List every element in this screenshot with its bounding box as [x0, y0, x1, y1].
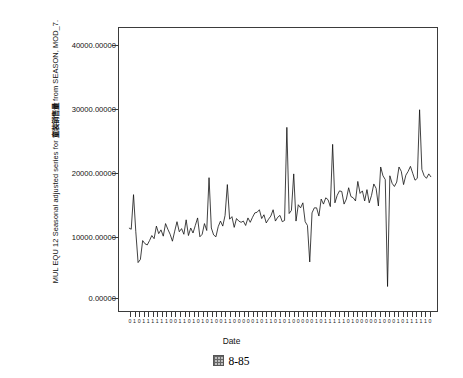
- x-tick-label: 1: [288, 318, 291, 324]
- x-tick-label: 1: [224, 318, 227, 324]
- x-tick-label: 0: [242, 318, 245, 324]
- x-tick-mark: [225, 312, 226, 317]
- x-tick-label: 1: [265, 318, 268, 324]
- x-tick-label: 1: [210, 318, 213, 324]
- x-tick-label: 1: [142, 318, 145, 324]
- x-tick-label: 1: [201, 318, 204, 324]
- x-tick-label: 1: [156, 318, 159, 324]
- x-tick-label: 0: [365, 318, 368, 324]
- x-tick-label: 0: [174, 318, 177, 324]
- x-tick-mark: [216, 312, 217, 317]
- x-axis-label: Date: [0, 336, 463, 346]
- x-tick-mark: [375, 312, 376, 317]
- x-tick-mark: [239, 312, 240, 317]
- x-tick-label: 1: [324, 318, 327, 324]
- x-tick-label: 1: [229, 318, 232, 324]
- x-tick-label: 0: [374, 318, 377, 324]
- x-tick-mark: [357, 312, 358, 317]
- x-tick-mark: [262, 312, 263, 317]
- x-tick-label: 0: [197, 318, 200, 324]
- x-tick-mark: [280, 312, 281, 317]
- x-tick-mark: [153, 312, 154, 317]
- x-tick-label: 1: [160, 318, 163, 324]
- x-tick-mark: [366, 312, 367, 317]
- x-tick-label: 0: [215, 318, 218, 324]
- x-tick-label: 0: [369, 318, 372, 324]
- x-tick-label: 0: [251, 318, 254, 324]
- x-tick-mark: [298, 312, 299, 317]
- x-tick-mark: [185, 312, 186, 317]
- x-tick-mark: [398, 312, 399, 317]
- x-tick-label: 1: [342, 318, 345, 324]
- x-tick-label: 0: [388, 318, 391, 324]
- x-tick-mark: [139, 312, 140, 317]
- x-tick-mark: [421, 312, 422, 317]
- x-tick-mark: [198, 312, 199, 317]
- x-tick-mark: [135, 312, 136, 317]
- x-tick-mark: [171, 312, 172, 317]
- y-tick-label-40000: 40000.00000: [34, 41, 116, 50]
- x-tick-mark: [130, 312, 131, 317]
- x-tick-mark: [257, 312, 258, 317]
- x-tick-mark: [230, 312, 231, 317]
- x-tick-label: 1: [256, 318, 259, 324]
- x-tick-mark: [339, 312, 340, 317]
- x-tick-mark: [412, 312, 413, 317]
- x-tick-mark: [275, 312, 276, 317]
- x-tick-label: 1: [151, 318, 154, 324]
- x-tick-mark: [144, 312, 145, 317]
- y-axis-ticks: 40000.00000 30000.00000 20000.00000 1000…: [28, 0, 116, 320]
- y-tick-label-30000: 30000.00000: [34, 105, 116, 114]
- x-tick-label: 0: [360, 318, 363, 324]
- figure-8-85: MUL EQU 12 Seasonal adjusted series for …: [0, 0, 463, 378]
- x-tick-label: 0: [401, 318, 404, 324]
- x-tick-mark: [321, 312, 322, 317]
- x-tick-label: 1: [410, 318, 413, 324]
- x-tick-label: 0: [392, 318, 395, 324]
- x-tick-label: 1: [147, 318, 150, 324]
- x-tick-label: 1: [279, 318, 282, 324]
- y-tick-label-0: 0.00000: [34, 294, 116, 303]
- x-tick-label: 1: [183, 318, 186, 324]
- x-tick-label: 1: [315, 318, 318, 324]
- x-tick-mark: [403, 312, 404, 317]
- x-tick-mark: [294, 312, 295, 317]
- x-tick-label: 1: [338, 318, 341, 324]
- x-tick-mark: [189, 312, 190, 317]
- figure-caption: 8-85: [0, 355, 463, 367]
- x-tick-label: 0: [260, 318, 263, 324]
- x-tick-mark: [175, 312, 176, 317]
- x-tick-label: 1: [397, 318, 400, 324]
- x-tick-mark: [244, 312, 245, 317]
- x-tick-mark: [371, 312, 372, 317]
- x-tick-mark: [407, 312, 408, 317]
- x-tick-label: 1: [419, 318, 422, 324]
- x-tick-label: 0: [238, 318, 241, 324]
- x-tick-mark: [285, 312, 286, 317]
- x-tick-label: 1: [165, 318, 168, 324]
- x-tick-mark: [162, 312, 163, 317]
- x-tick-mark: [248, 312, 249, 317]
- x-tick-label: 0: [188, 318, 191, 324]
- x-tick-label: 0: [310, 318, 313, 324]
- x-tick-label: 0: [233, 318, 236, 324]
- x-tick-label: 0: [274, 318, 277, 324]
- x-tick-mark: [303, 312, 304, 317]
- x-tick-mark: [157, 312, 158, 317]
- x-tick-label: 0: [319, 318, 322, 324]
- x-tick-label: 0: [306, 318, 309, 324]
- x-tick-label: 1: [379, 318, 382, 324]
- x-tick-label: 0: [219, 318, 222, 324]
- x-tick-mark: [148, 312, 149, 317]
- x-tick-label: 1: [192, 318, 195, 324]
- x-tick-label: 1: [415, 318, 418, 324]
- x-tick-label: 0: [347, 318, 350, 324]
- x-tick-label: 1: [351, 318, 354, 324]
- x-axis-tick-labels: 0101111110011010101001100000101101010000…: [118, 318, 438, 328]
- x-tick-mark: [307, 312, 308, 317]
- x-tick-mark: [221, 312, 222, 317]
- x-tick-mark: [348, 312, 349, 317]
- x-tick-mark: [235, 312, 236, 317]
- x-tick-mark: [203, 312, 204, 317]
- x-tick-mark: [430, 312, 431, 317]
